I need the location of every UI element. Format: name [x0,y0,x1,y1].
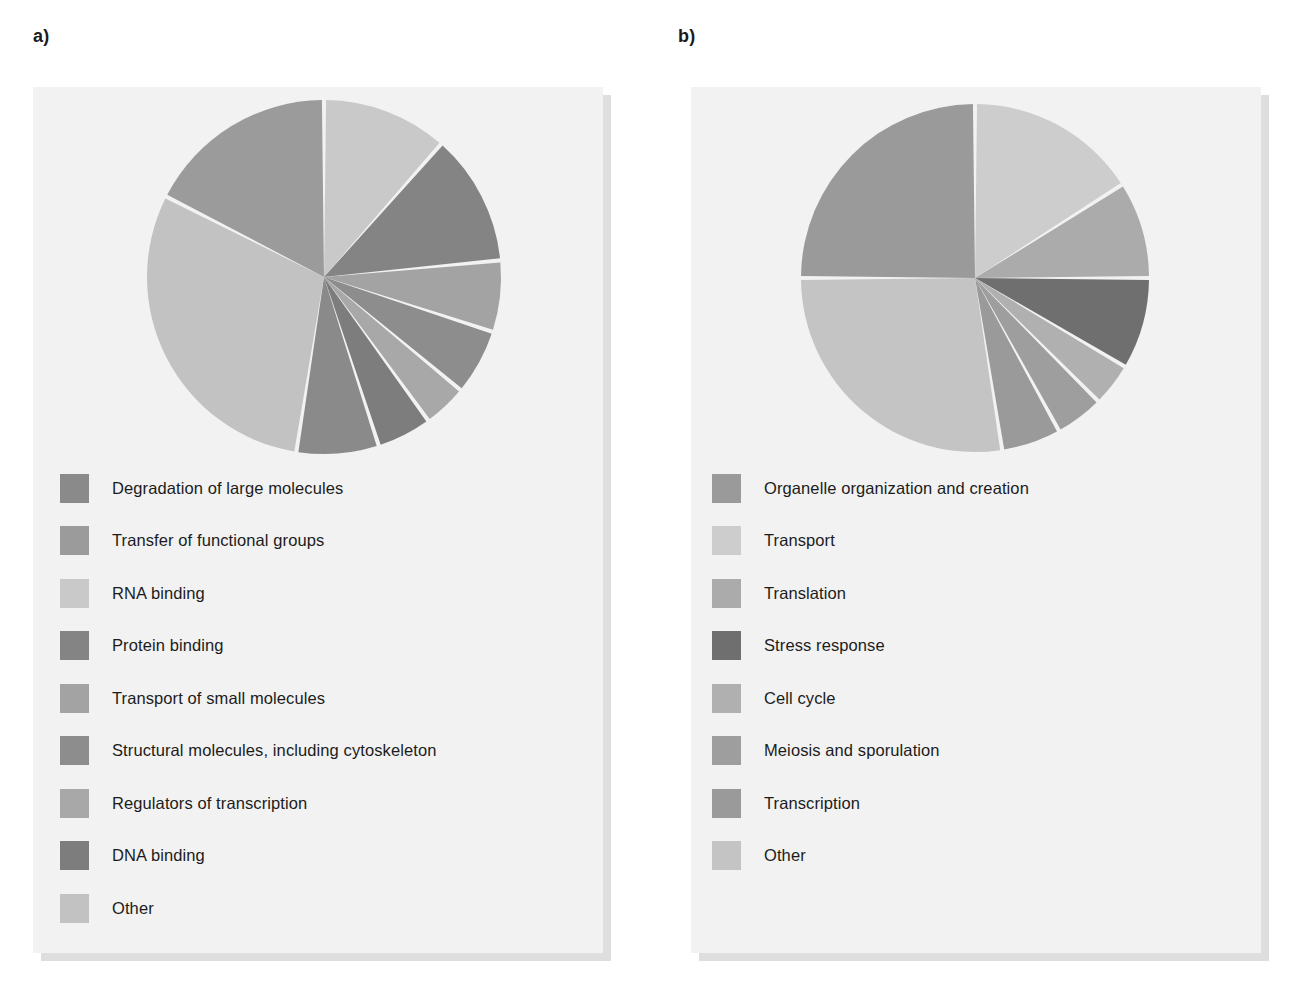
legend-swatch-icon [60,631,89,660]
legend-item-label: Transport of small molecules [112,689,325,708]
panel-a: a) Degradation of large moleculesTransfe… [0,0,645,981]
legend-swatch-icon [712,526,741,555]
panel-b-label: b) [678,26,695,47]
legend-item-label: Transcription [764,794,860,813]
legend-item-label: Transfer of functional groups [112,531,324,550]
legend-item-label: Stress response [764,636,885,655]
legend-item: Transfer of functional groups [60,515,436,568]
legend-item-label: DNA binding [112,846,205,865]
panel-b: b) Organelle organization and creationTr… [645,0,1290,981]
legend-item: Degradation of large molecules [60,462,436,515]
panel-a-legend: Degradation of large moleculesTransfer o… [60,462,436,935]
legend-item-label: Organelle organization and creation [764,479,1029,498]
legend-item: Transcription [712,777,1029,830]
legend-item-label: Protein binding [112,636,224,655]
legend-item: Transport of small molecules [60,672,436,725]
legend-item-label: Translation [764,584,846,603]
legend-swatch-icon [60,841,89,870]
legend-swatch-icon [60,579,89,608]
legend-item: Protein binding [60,620,436,673]
figure-two-pie-panels: a) Degradation of large moleculesTransfe… [0,0,1290,981]
legend-item: DNA binding [60,830,436,883]
legend-item-label: Meiosis and sporulation [764,741,940,760]
panel-b-legend: Organelle organization and creationTrans… [712,462,1029,882]
legend-item-label: Regulators of transcription [112,794,307,813]
legend-item: Stress response [712,620,1029,673]
legend-swatch-icon [712,684,741,713]
legend-item: Translation [712,567,1029,620]
legend-item-label: RNA binding [112,584,205,603]
legend-item-label: Transport [764,531,835,550]
legend-swatch-icon [712,841,741,870]
legend-swatch-icon [712,736,741,765]
legend-swatch-icon [60,789,89,818]
legend-swatch-icon [60,736,89,765]
legend-swatch-icon [60,526,89,555]
legend-item: Meiosis and sporulation [712,725,1029,778]
legend-item-label: Cell cycle [764,689,836,708]
legend-item-label: Other [764,846,806,865]
legend-swatch-icon [712,474,741,503]
panel-a-label: a) [33,26,49,47]
legend-swatch-icon [60,894,89,923]
legend-swatch-icon [712,631,741,660]
legend-item: RNA binding [60,567,436,620]
legend-swatch-icon [712,579,741,608]
legend-swatch-icon [60,474,89,503]
legend-swatch-icon [60,684,89,713]
legend-swatch-icon [712,789,741,818]
legend-item: Other [712,830,1029,883]
legend-item-label: Structural molecules, including cytoskel… [112,741,436,760]
legend-item: Structural molecules, including cytoskel… [60,725,436,778]
legend-item-label: Degradation of large molecules [112,479,343,498]
legend-item: Cell cycle [712,672,1029,725]
legend-item: Other [60,882,436,935]
legend-item: Organelle organization and creation [712,462,1029,515]
legend-item-label: Other [112,899,154,918]
legend-item: Regulators of transcription [60,777,436,830]
legend-item: Transport [712,515,1029,568]
